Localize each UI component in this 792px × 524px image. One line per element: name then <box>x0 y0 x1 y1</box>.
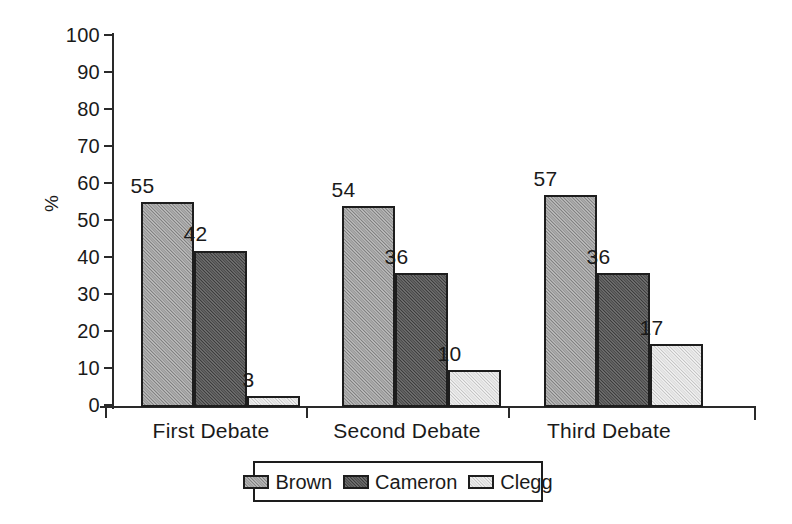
bar-value-brown-second-debate: 54 <box>317 179 370 200</box>
legend-swatch-cameron-icon <box>343 475 369 489</box>
bar-value-clegg-third-debate: 17 <box>625 317 678 338</box>
bar-brown-third-debate <box>544 195 597 407</box>
bar-value-cameron-third-debate: 36 <box>572 246 625 267</box>
legend-item-brown: Brown <box>243 472 332 492</box>
legend-item-cameron: Cameron <box>343 472 457 492</box>
bar-value-brown-third-debate: 57 <box>519 168 572 189</box>
bar-value-cameron-first-debate: 42 <box>169 223 222 244</box>
legend-label-cameron: Cameron <box>375 472 457 492</box>
chart-legend: Brown Cameron Clegg <box>253 461 543 502</box>
x-axis-category-label-third: Third Debate <box>508 420 710 441</box>
bar-value-clegg-second-debate: 10 <box>423 343 476 364</box>
bar-brown-second-debate <box>342 206 395 407</box>
bar-chart: % 100 90 80 70 60 50 40 30 <box>0 0 792 524</box>
y-tick-label: 100 <box>54 25 100 45</box>
bar-clegg-first-debate <box>247 396 300 407</box>
y-tick-label: 50 <box>54 210 100 230</box>
x-axis-end-tick <box>754 407 756 420</box>
bar-clegg-second-debate <box>448 370 501 407</box>
y-tick-label: 90 <box>54 62 100 82</box>
bar-cameron-third-debate <box>597 273 650 407</box>
x-axis-category-label-second: Second Debate <box>306 420 508 441</box>
y-tick-label: 30 <box>54 284 100 304</box>
legend-label-clegg: Clegg <box>500 472 552 492</box>
x-axis-category-label-first: First Debate <box>111 420 311 441</box>
y-tick-label: 60 <box>54 173 100 193</box>
x-axis-tick <box>508 407 510 418</box>
bar-cameron-second-debate <box>395 273 448 407</box>
legend-label-brown: Brown <box>275 472 332 492</box>
y-tick-label: 10 <box>54 358 100 378</box>
y-tick-label: 0 <box>54 395 100 415</box>
legend-item-clegg: Clegg <box>468 472 552 492</box>
bar-value-brown-first-debate: 55 <box>116 175 169 196</box>
y-tick-label: 70 <box>54 136 100 156</box>
bar-value-cameron-second-debate: 36 <box>370 246 423 267</box>
legend-swatch-brown-icon <box>243 475 269 489</box>
bar-clegg-third-debate <box>650 344 703 407</box>
y-tick-label: 20 <box>54 321 100 341</box>
x-axis-tick <box>105 407 107 418</box>
y-tick-label: 80 <box>54 99 100 119</box>
x-axis-tick <box>306 407 308 418</box>
legend-swatch-clegg-icon <box>468 475 494 489</box>
y-tick-label: 40 <box>54 247 100 267</box>
bar-value-clegg-first-debate: 3 <box>222 369 275 390</box>
